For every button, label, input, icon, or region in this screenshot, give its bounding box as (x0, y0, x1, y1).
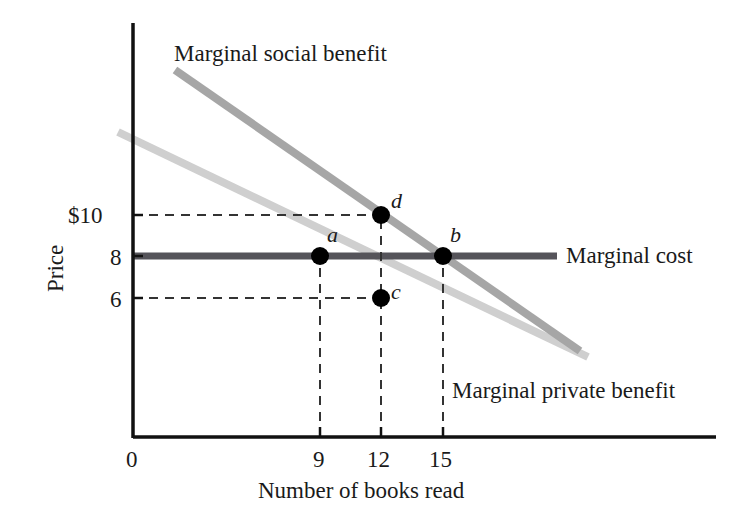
x-axis-title: Number of books read (258, 479, 464, 502)
x-tick-label-0: 0 (126, 448, 138, 471)
y-axis-title: Price (44, 245, 67, 292)
x-tick-label-12: 12 (367, 448, 390, 471)
y-tick-label-6: 6 (110, 288, 122, 311)
data-point-a[interactable] (311, 247, 329, 265)
marginal-cost-label: Marginal cost (566, 244, 693, 267)
point-label-c: c (391, 281, 401, 303)
externality-graph-figure: Marginal social benefit Marginal cost Ma… (0, 0, 741, 513)
point-label-a: a (327, 224, 338, 246)
y-tick-label-8: 8 (110, 246, 122, 269)
data-point-b[interactable] (434, 247, 452, 265)
marginal-social-benefit-label: Marginal social benefit (174, 42, 387, 65)
y-tick-label-10: $10 (68, 204, 103, 227)
data-point-d[interactable] (372, 206, 390, 224)
x-tick-label-15: 15 (429, 448, 452, 471)
data-point-c[interactable] (372, 289, 390, 307)
x-tick-label-9: 9 (313, 448, 325, 471)
marginal-private-benefit-label: Marginal private benefit (452, 379, 675, 402)
point-label-d: d (391, 190, 402, 212)
point-label-b: b (450, 224, 461, 246)
marginal-private-benefit-curve (118, 132, 588, 357)
